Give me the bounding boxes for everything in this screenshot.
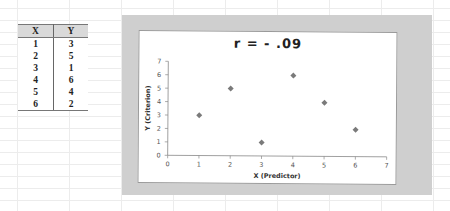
cell-x[interactable]: 6 [18, 98, 54, 111]
cell-y[interactable]: 6 [54, 74, 89, 86]
y-axis-title: Y (Criterion) [144, 86, 152, 132]
x-tick-label: 4 [291, 161, 295, 169]
y-tick-label: 7 [157, 58, 161, 66]
cell-x[interactable]: 5 [18, 86, 54, 98]
y-tick-label: 0 [156, 152, 160, 160]
x-tick-label: 0 [166, 160, 170, 168]
y-tick-label: 5 [157, 84, 161, 92]
y-tick-label: 2 [157, 125, 161, 133]
y-tick-label: 6 [157, 71, 161, 79]
column-header-x[interactable]: X [18, 25, 54, 38]
cell-x[interactable]: 2 [18, 50, 54, 62]
cell-y[interactable]: 4 [54, 86, 89, 98]
table-row: 46 [18, 74, 88, 86]
x-tick-label: 7 [384, 162, 388, 170]
cell-x[interactable]: 4 [18, 74, 54, 86]
table-row: 13 [18, 38, 88, 51]
x-axis-title: X (Predictor) [253, 172, 300, 180]
y-tick-label: 3 [157, 111, 161, 119]
x-tick-label: 3 [259, 161, 263, 169]
cell-x[interactable]: 1 [18, 38, 54, 51]
x-tick-label: 6 [353, 162, 357, 170]
table-row: 31 [18, 62, 88, 74]
x-tick-label: 5 [322, 161, 326, 169]
cell-y[interactable]: 2 [54, 98, 89, 111]
cell-x[interactable]: 3 [18, 62, 54, 74]
plot-area[interactable]: r = - .09 0123456701234567X (Predictor)Y… [137, 30, 397, 185]
data-point-marker [259, 140, 265, 146]
data-point-marker [353, 127, 359, 133]
data-point-marker [228, 86, 234, 92]
table-row: 25 [18, 50, 88, 62]
scatter-plot: 0123456701234567X (Predictor)Y (Criterio… [138, 31, 396, 184]
x-tick-label: 1 [197, 161, 201, 169]
table-row: 62 [18, 98, 88, 111]
y-axis-line [168, 61, 169, 155]
y-tick-label: 4 [157, 98, 161, 106]
cell-y[interactable]: 3 [54, 38, 89, 51]
cell-y[interactable]: 5 [54, 50, 89, 62]
data-point-marker [196, 112, 202, 118]
data-point-marker [290, 73, 296, 79]
cell-y[interactable]: 1 [54, 62, 89, 74]
data-table: X Y 13 25 31 46 54 62 [18, 24, 88, 111]
table-header-row: X Y [18, 25, 88, 38]
column-header-y[interactable]: Y [54, 25, 89, 38]
y-tick-label: 1 [157, 138, 161, 146]
table-row: 54 [18, 86, 88, 98]
data-point-marker [321, 100, 327, 106]
x-tick-label: 2 [228, 161, 232, 169]
x-axis-line [168, 155, 387, 157]
